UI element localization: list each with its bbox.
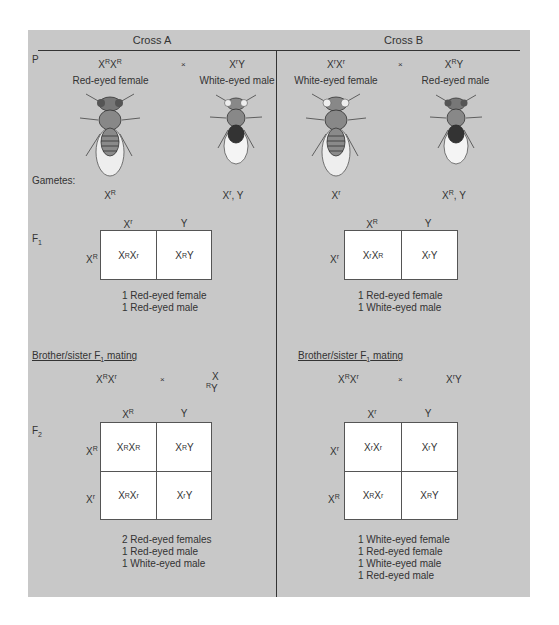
female-fly-red-eyed-icon [74,90,146,180]
cross-b-male-gametes: XR, Y [432,189,476,201]
cross-b-mating-female: XRXr [338,373,359,385]
cross-a-female-genotype: XRXR [70,58,150,70]
header-divider [38,50,520,51]
cross-b-female-phenotype: White-eyed female [281,75,391,86]
cross-a-f2-punnett-square: XRXR XRY XRXr XrY [100,422,212,520]
f2-label: F2 [32,425,42,438]
cross-a-male-phenotype: White-eyed male [188,75,286,86]
cross-a-male-gametes: Xr, Y [213,189,253,201]
cross-a-mating-male-bottom: RY [206,382,218,394]
cross-a-f1-punnett-square: XRXr XRY [100,230,212,280]
cross-b-female-genotype: XrXr [296,58,376,70]
cross-a-f1-col-header: Y [156,218,212,229]
male-fly-red-eyed-icon [426,92,486,168]
cross-a-male-genotype: XrY [192,58,282,70]
cross-a-mating-male-top: X [212,371,219,382]
punnett-cell: XRY [402,472,457,519]
cross-b-f2-results: 1 White-eyed female1 Red-eyed female1 Wh… [358,534,450,582]
male-fly-white-eyed-icon [206,92,266,168]
column-divider [276,50,277,597]
cross-a-f2-results: 2 Red-eyed females1 Red-eyed male1 White… [122,534,212,570]
female-fly-white-eyed-icon [300,90,372,180]
punnett-cell: XrXR [345,231,401,279]
punnett-cell: XrY [402,423,457,471]
cross-a-female-gamete: XR [90,189,130,201]
cross-b-title: Cross B [277,30,530,50]
cross-a-f1-results: 1 Red-eyed female1 Red-eyed male [122,290,207,314]
punnett-cell: XRY [157,231,212,279]
cross-a-title: Cross A [28,30,276,50]
punnett-cell: XrY [157,472,212,519]
cross-b-f2-punnett-square: XrXr XrY XRXr XRY [344,422,458,520]
cross-b-f2-col-header: Xr [344,408,400,420]
cross-b-mating-label: Brother/sister F1 mating [298,350,403,363]
cross-a-f1-col-header: Xr [100,218,156,230]
cross-b-f1-col-header: Y [400,218,456,229]
gametes-label: Gametes: [32,175,75,186]
cross-a-f2-row-header: Xr [86,493,95,505]
punnett-cell: XRXr [101,472,156,519]
cross-b-mating-male: XrY [446,373,462,385]
punnett-cell: XRXR [101,423,156,471]
cross-b-female-gamete: Xr [316,189,356,201]
punnett-cell: XRY [157,423,212,471]
cross-b-f2-row-header: XR [328,493,340,505]
punnett-cell: XrXr [345,423,401,471]
cross-a-f2-row-header: XR [86,445,98,457]
cross-b-male-phenotype: Red-eyed male [408,75,503,86]
cross-a-mating-label: Brother/sister F1 mating [32,350,137,363]
cross-b-f2-row-header: Xr [330,445,339,457]
punnett-cell: XrY [402,231,457,279]
cross-b-f1-row-header: Xr [330,253,339,265]
cross-b-f2-col-header: Y [400,408,456,419]
f1-label: F1 [32,233,42,246]
cross-a-female-phenotype: Red-eyed female [63,75,158,86]
p-generation-label: P [32,54,39,65]
cross-b-f1-punnett-square: XrXR XrY [344,230,458,280]
cross-a-f2-col-header: Y [156,408,212,419]
diagram-panel: Cross A Cross B P XRXR × XrY Red-eyed fe… [28,30,530,597]
cross-a-f2-col-header: XR [100,408,156,420]
cross-b-mating-cross-symbol: × [398,375,403,384]
punnett-cell: XRXr [345,472,401,519]
cross-b-male-genotype: XRY [414,58,494,70]
cross-b-f1-results: 1 Red-eyed female1 White-eyed male [358,290,443,314]
cross-b-cross-symbol: × [398,60,403,69]
cross-a-f1-row-header: XR [86,253,98,265]
cross-a-mating-female: XRXr [96,373,117,385]
punnett-cell: XRXr [101,231,156,279]
cross-a-mating-cross-symbol: × [160,375,165,384]
cross-b-f1-col-header: XR [344,218,400,230]
cross-a-cross-symbol: × [181,60,186,69]
